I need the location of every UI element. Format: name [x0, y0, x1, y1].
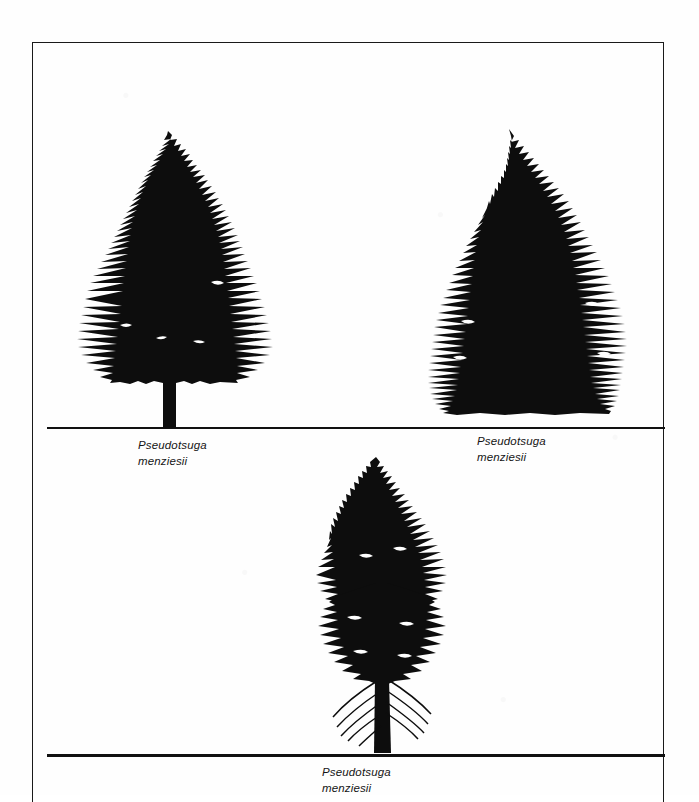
caption-genus: Pseudotsuga — [477, 434, 546, 450]
caption-lower-center: Pseudotsuga menziesii — [322, 765, 391, 796]
tree-crown-mid — [318, 583, 446, 684]
caption-species: menziesii — [138, 454, 207, 470]
tree-figure-upper-right — [405, 125, 655, 433]
tree-crown — [428, 129, 627, 415]
tree-crown — [77, 131, 273, 384]
caption-species: menziesii — [322, 781, 391, 797]
caption-genus: Pseudotsuga — [138, 438, 207, 454]
tree-trunk — [163, 383, 176, 428]
douglas-fir-silhouette-open-grown — [60, 125, 290, 435]
ground-line-lower — [47, 754, 665, 757]
caption-genus: Pseudotsuga — [322, 765, 391, 781]
tree-crown-upper — [316, 457, 447, 605]
douglas-fir-silhouette-mature-forest — [275, 455, 490, 757]
douglas-fir-silhouette-dense-conical — [405, 125, 655, 433]
caption-upper-left: Pseudotsuga menziesii — [138, 438, 207, 469]
tree-figure-upper-left — [60, 125, 290, 435]
tree-figure-lower-center — [275, 455, 490, 757]
